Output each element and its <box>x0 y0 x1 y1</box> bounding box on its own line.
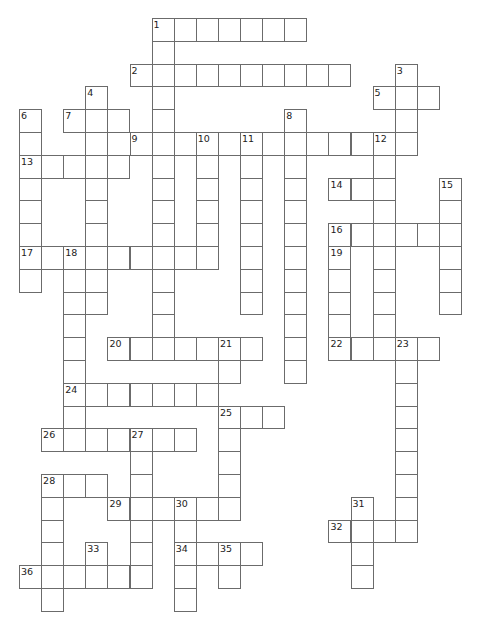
crossword-cell[interactable] <box>85 200 108 224</box>
crossword-cell[interactable]: 28 <box>41 474 64 498</box>
crossword-cell[interactable] <box>284 155 307 179</box>
crossword-cell[interactable]: 5 <box>373 86 396 110</box>
crossword-cell[interactable] <box>373 269 396 293</box>
crossword-cell[interactable] <box>240 542 263 566</box>
crossword-cell[interactable] <box>196 497 219 521</box>
crossword-cell[interactable] <box>152 246 175 270</box>
crossword-cell[interactable] <box>373 155 396 179</box>
crossword-cell[interactable] <box>19 132 42 156</box>
crossword-cell[interactable] <box>351 132 374 156</box>
crossword-cell[interactable] <box>218 474 241 498</box>
crossword-cell[interactable] <box>130 542 153 566</box>
crossword-cell[interactable] <box>85 474 108 498</box>
crossword-cell[interactable] <box>41 155 64 179</box>
crossword-cell[interactable] <box>373 246 396 270</box>
crossword-cell[interactable] <box>63 428 86 452</box>
crossword-cell[interactable] <box>152 292 175 316</box>
crossword-cell[interactable] <box>174 18 197 42</box>
crossword-cell[interactable] <box>107 246 130 270</box>
crossword-cell[interactable] <box>417 337 440 361</box>
crossword-cell[interactable] <box>373 178 396 202</box>
crossword-cell[interactable] <box>85 155 108 179</box>
crossword-cell[interactable]: 21 <box>218 337 241 361</box>
crossword-cell[interactable] <box>85 223 108 247</box>
crossword-cell[interactable] <box>417 86 440 110</box>
crossword-cell[interactable]: 2 <box>130 64 153 88</box>
crossword-cell[interactable] <box>351 542 374 566</box>
crossword-cell[interactable] <box>174 428 197 452</box>
crossword-cell[interactable] <box>196 64 219 88</box>
crossword-cell[interactable]: 17 <box>19 246 42 270</box>
crossword-cell[interactable]: 18 <box>63 246 86 270</box>
crossword-cell[interactable] <box>284 246 307 270</box>
crossword-cell[interactable] <box>284 200 307 224</box>
crossword-cell[interactable] <box>107 428 130 452</box>
crossword-cell[interactable] <box>152 64 175 88</box>
crossword-cell[interactable] <box>284 360 307 384</box>
crossword-cell[interactable]: 36 <box>19 565 42 589</box>
crossword-cell[interactable] <box>306 64 329 88</box>
crossword-cell[interactable] <box>328 132 351 156</box>
crossword-cell[interactable]: 34 <box>174 542 197 566</box>
crossword-cell[interactable]: 35 <box>218 542 241 566</box>
crossword-cell[interactable]: 24 <box>63 383 86 407</box>
crossword-cell[interactable] <box>174 565 197 589</box>
crossword-cell[interactable] <box>107 383 130 407</box>
crossword-cell[interactable] <box>262 132 285 156</box>
crossword-cell[interactable] <box>196 200 219 224</box>
crossword-cell[interactable] <box>174 64 197 88</box>
crossword-cell[interactable] <box>41 542 64 566</box>
crossword-cell[interactable] <box>395 474 418 498</box>
crossword-cell[interactable]: 26 <box>41 428 64 452</box>
crossword-cell[interactable] <box>85 132 108 156</box>
crossword-cell[interactable] <box>174 383 197 407</box>
crossword-cell[interactable] <box>152 200 175 224</box>
crossword-cell[interactable] <box>373 337 396 361</box>
crossword-cell[interactable]: 15 <box>439 178 462 202</box>
crossword-cell[interactable]: 6 <box>19 109 42 133</box>
crossword-cell[interactable] <box>130 451 153 475</box>
crossword-cell[interactable] <box>107 155 130 179</box>
crossword-cell[interactable] <box>218 64 241 88</box>
crossword-cell[interactable] <box>240 337 263 361</box>
crossword-cell[interactable] <box>196 383 219 407</box>
crossword-cell[interactable] <box>395 428 418 452</box>
crossword-cell[interactable] <box>218 132 241 156</box>
crossword-cell[interactable] <box>85 383 108 407</box>
crossword-cell[interactable] <box>174 588 197 612</box>
crossword-cell[interactable] <box>439 223 462 247</box>
crossword-cell[interactable] <box>306 132 329 156</box>
crossword-cell[interactable] <box>196 178 219 202</box>
crossword-cell[interactable] <box>19 223 42 247</box>
crossword-cell[interactable] <box>63 565 86 589</box>
crossword-cell[interactable] <box>85 292 108 316</box>
crossword-cell[interactable] <box>174 132 197 156</box>
crossword-cell[interactable]: 20 <box>107 337 130 361</box>
crossword-cell[interactable] <box>240 18 263 42</box>
crossword-cell[interactable] <box>41 588 64 612</box>
crossword-cell[interactable] <box>174 520 197 544</box>
crossword-cell[interactable] <box>152 41 175 65</box>
crossword-cell[interactable] <box>395 451 418 475</box>
crossword-cell[interactable] <box>351 337 374 361</box>
crossword-cell[interactable] <box>395 132 418 156</box>
crossword-cell[interactable]: 10 <box>196 132 219 156</box>
crossword-cell[interactable]: 25 <box>218 406 241 430</box>
crossword-cell[interactable] <box>152 383 175 407</box>
crossword-cell[interactable] <box>328 269 351 293</box>
crossword-cell[interactable]: 7 <box>63 109 86 133</box>
crossword-cell[interactable] <box>351 520 374 544</box>
crossword-cell[interactable] <box>240 246 263 270</box>
crossword-cell[interactable] <box>373 520 396 544</box>
crossword-cell[interactable] <box>19 200 42 224</box>
crossword-cell[interactable] <box>351 565 374 589</box>
crossword-cell[interactable] <box>284 269 307 293</box>
crossword-cell[interactable] <box>328 292 351 316</box>
crossword-cell[interactable] <box>130 337 153 361</box>
crossword-cell[interactable]: 31 <box>351 497 374 521</box>
crossword-cell[interactable] <box>373 292 396 316</box>
crossword-cell[interactable] <box>395 86 418 110</box>
crossword-cell[interactable] <box>41 497 64 521</box>
crossword-cell[interactable] <box>240 178 263 202</box>
crossword-cell[interactable] <box>196 337 219 361</box>
